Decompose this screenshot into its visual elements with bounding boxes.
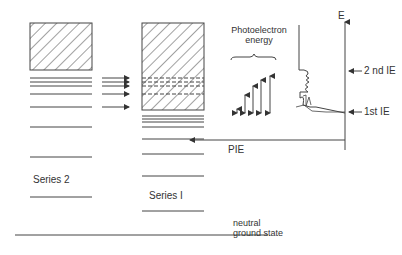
series-2-levels — [30, 23, 92, 197]
series-1-label: Series I — [149, 190, 183, 201]
photoelectron-label-line1: Photoelectron — [229, 25, 289, 35]
series-1-continuum — [142, 23, 204, 110]
second-ie-label: 2 nd IE — [364, 65, 396, 76]
ground-state-label: neutral ground state — [233, 218, 283, 238]
series-2-continuum — [30, 23, 92, 70]
ground-state-label-line2: ground state — [233, 228, 283, 238]
ground-state-label-line1: neutral — [233, 218, 283, 228]
series-2-label: Series 2 — [33, 174, 70, 185]
pie-label: PIE — [228, 144, 244, 155]
brace-icon — [231, 54, 276, 60]
series-1-levels — [142, 23, 204, 211]
diagram-canvas — [0, 0, 402, 255]
energy-axis-label: E — [338, 10, 345, 21]
first-ie-label: 1st IE — [364, 106, 390, 117]
photoelectron-arrows — [237, 76, 270, 113]
energy-level-diagram: Series 2 Series I Photoelectron energy E… — [0, 0, 402, 255]
autoionization-arrows — [102, 78, 129, 107]
photoelectron-energy-label: Photoelectron energy — [229, 25, 289, 45]
photoelectron-label-line2: energy — [229, 35, 289, 45]
